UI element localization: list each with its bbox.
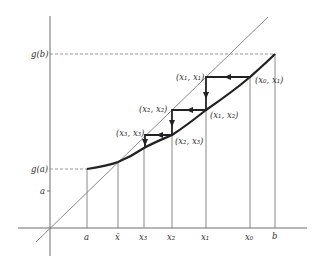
label-gb: g(b) — [31, 49, 49, 59]
label-x2x2: (x₂, x₂) — [139, 104, 167, 114]
arrow-down-icon — [203, 92, 209, 99]
arrow-left-icon — [156, 132, 163, 138]
label-a-y: a — [40, 186, 45, 196]
arrow-down-icon — [142, 139, 148, 146]
label-x0x1: (x₀, x₁) — [255, 75, 283, 85]
label-xbar: x̄ — [115, 232, 120, 242]
label-a-x: a — [84, 232, 89, 242]
label-x1x1: (x₁, x₁) — [176, 72, 204, 82]
label-x2x3: (x₂, x₃) — [175, 136, 203, 146]
identity-line — [36, 17, 268, 242]
label-ga: g(a) — [31, 164, 48, 174]
label-x3: x₃ — [139, 232, 148, 242]
arrow-left-icon — [224, 74, 231, 80]
fixed-point-diagram: g(b) g(a) a a x̄ x₃ x₂ x₁ x₀ b (x₁, x₁) … — [0, 0, 320, 260]
label-x1: x₁ — [201, 232, 209, 242]
label-x1x2: (x₁, x₂) — [210, 110, 238, 120]
arrow-left-icon — [186, 107, 193, 113]
label-x2: x₂ — [167, 232, 176, 242]
label-x3x3: (x₃, x₃) — [116, 128, 144, 138]
label-x0: x₀ — [245, 232, 254, 242]
arrow-down-icon — [169, 120, 175, 127]
label-b: b — [272, 231, 277, 241]
